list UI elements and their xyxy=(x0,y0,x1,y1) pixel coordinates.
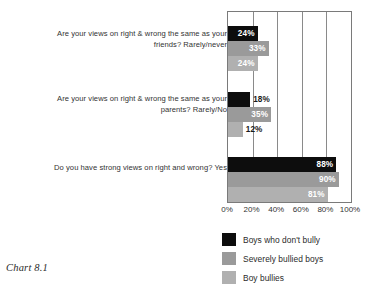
x-tick-label: 80% xyxy=(317,205,333,214)
legend-item: Boy bullies xyxy=(222,268,323,287)
bar-value-label: 90% xyxy=(319,175,339,184)
bar-value-label: 33% xyxy=(249,44,269,53)
plot-area: 24%33%24%18%35%12%88%90%81% xyxy=(227,11,352,203)
category-label-strong-views: Do you have strong views on right and wr… xyxy=(52,163,227,174)
category-label-friends: Are your views on right & wrong the same… xyxy=(52,29,227,50)
bar: 33% xyxy=(228,41,269,56)
bar-value-label: 24% xyxy=(238,59,258,68)
bar: 35% xyxy=(228,107,271,122)
legend-swatch-icon xyxy=(222,233,236,246)
legend-item: Severely bullied boys xyxy=(222,249,323,268)
x-tick-label: 40% xyxy=(268,205,284,214)
x-tick-label: 0% xyxy=(221,205,233,214)
legend-label: Boy bullies xyxy=(243,273,284,283)
x-tick-label: 60% xyxy=(293,205,309,214)
chart-caption: Chart 8.1 xyxy=(6,262,48,273)
legend-swatch-icon xyxy=(222,252,236,265)
bar: 18% xyxy=(228,92,250,107)
bar: 81% xyxy=(228,187,328,202)
bar-value-label: 88% xyxy=(317,160,337,169)
bar-value-label: 81% xyxy=(308,190,328,199)
x-axis-ticks: 0%20%40%60%80%100% xyxy=(227,205,352,217)
legend-label: Boys who don't bully xyxy=(243,235,320,245)
bar-value-label: 35% xyxy=(251,110,271,119)
bar: 88% xyxy=(228,157,336,172)
chart-figure: Are your views on right & wrong the same… xyxy=(0,0,387,295)
legend-item: Boys who don't bully xyxy=(222,230,323,249)
category-label-parents: Are your views on right & wrong the same… xyxy=(52,94,227,115)
legend-label: Severely bullied boys xyxy=(243,254,323,264)
x-tick-label: 100% xyxy=(340,205,360,214)
bar-value-label: 12% xyxy=(243,125,263,134)
chart-legend: Boys who don't bullySeverely bullied boy… xyxy=(222,230,323,287)
bar-value-label: 18% xyxy=(250,95,270,104)
bar: 24% xyxy=(228,26,258,41)
bar: 90% xyxy=(228,172,339,187)
bar: 24% xyxy=(228,56,258,71)
bar-value-label: 24% xyxy=(238,29,258,38)
legend-swatch-icon xyxy=(222,271,236,284)
bar: 12% xyxy=(228,122,243,137)
x-tick-label: 20% xyxy=(244,205,260,214)
